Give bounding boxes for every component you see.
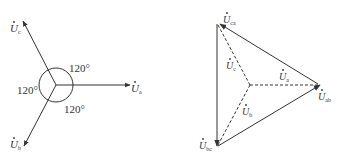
label-inner-c: Uc — [226, 58, 236, 72]
label-vertex-ca: Uca — [223, 12, 236, 26]
svg-text:Ua: Ua — [131, 82, 142, 95]
phasor-diagrams: Uc Ua Ub 120° 120° 120° Uca Uab — [0, 0, 341, 159]
label-inner-a: Ua — [279, 69, 289, 83]
svg-text:Ubc: Ubc — [199, 140, 212, 152]
side-bc-ab — [218, 85, 320, 146]
svg-text:Uc: Uc — [226, 60, 236, 72]
line-voltage-triangle: Uca Uab Ubc Uc Ua Ub — [199, 12, 331, 152]
svg-text:Ub: Ub — [242, 106, 252, 118]
angle-label-ba: 120° — [64, 103, 85, 115]
angle-label-cb: 120° — [17, 84, 38, 96]
label-phasor-a: Ua — [131, 81, 142, 95]
inner-phasor-c — [218, 25, 250, 85]
label-inner-b: Ub — [242, 104, 252, 118]
label-phasor-c: Uc — [10, 21, 21, 35]
svg-text:Ub: Ub — [10, 138, 21, 151]
side-ca-ab — [220, 24, 318, 84]
star-phasor-diagram: Uc Ua Ub 120° 120° 120° — [10, 21, 142, 151]
svg-text:Uc: Uc — [10, 22, 21, 35]
label-vertex-bc: Ubc — [199, 138, 212, 152]
svg-text:Uca: Uca — [223, 14, 236, 26]
phasor-c-arrow — [23, 21, 56, 85]
angle-label-ac: 120° — [69, 62, 90, 74]
label-vertex-ab: Uab — [318, 89, 331, 103]
label-phasor-b: Ub — [10, 137, 21, 151]
svg-text:Uab: Uab — [318, 91, 331, 103]
svg-text:Ua: Ua — [279, 71, 289, 83]
